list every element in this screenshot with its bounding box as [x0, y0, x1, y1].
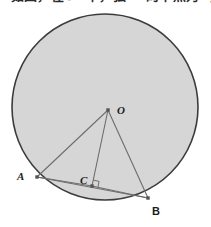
- point-b: [146, 196, 149, 199]
- label-c: C: [80, 174, 88, 186]
- label-o: O: [117, 104, 125, 116]
- point-a: [35, 175, 38, 178]
- screenshot-root: 如图，在⊙O中，弦AB的中点为C，连接OC。 OACB: [0, 0, 211, 227]
- circle-o: [12, 14, 198, 200]
- point-o: [106, 108, 109, 111]
- geometry-figure: OACB: [0, 0, 211, 227]
- label-a: A: [16, 170, 24, 182]
- point-c: [90, 184, 93, 187]
- label-b: B: [152, 205, 160, 217]
